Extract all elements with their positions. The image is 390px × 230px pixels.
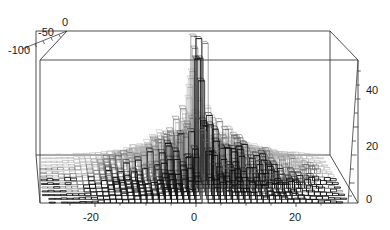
histogram-bar <box>63 164 69 166</box>
histogram-bar <box>74 160 80 163</box>
histogram-bar <box>318 166 324 170</box>
histogram-bar <box>79 197 85 199</box>
histogram-bar <box>71 182 77 185</box>
histogram-bar <box>68 158 74 159</box>
histogram-bar <box>52 168 58 170</box>
histogram-bar <box>54 191 60 192</box>
histogram-bar <box>73 157 79 159</box>
histogram-bar <box>79 157 85 159</box>
histogram-bar <box>335 187 341 188</box>
histogram-bar <box>332 183 338 185</box>
y-axis-tick <box>43 41 45 44</box>
histogram-bar-top <box>204 105 211 108</box>
histogram-bar <box>116 199 122 203</box>
histogram-bar-top <box>215 119 222 122</box>
histogram-bar <box>51 161 57 162</box>
histogram-bar <box>78 154 84 155</box>
histogram-bar <box>42 195 48 196</box>
y-axis-tick <box>51 38 53 41</box>
histogram-bar <box>315 179 321 184</box>
histogram-bar <box>45 161 51 162</box>
histogram-bar <box>39 158 45 159</box>
histogram-bar <box>54 187 60 189</box>
histogram-bar <box>331 189 337 192</box>
histogram-bar <box>46 168 52 170</box>
histogram-bar <box>49 195 55 196</box>
histogram-bar <box>67 154 73 155</box>
histogram-bar <box>329 198 335 200</box>
histogram-bar <box>69 165 75 167</box>
histogram-bar <box>61 154 67 155</box>
histogram-bar <box>104 196 110 199</box>
histogram-bar <box>80 202 86 204</box>
histogram-bar <box>52 172 58 174</box>
histogram-bar <box>84 185 90 188</box>
histogram-bar-top <box>179 106 186 109</box>
y-axis-tick <box>59 34 61 37</box>
z-axis-line <box>348 60 358 203</box>
histogram-bar <box>123 200 129 203</box>
histogram-bar <box>55 198 61 199</box>
histogram-bar <box>64 170 70 173</box>
histogram-bar <box>328 175 334 178</box>
histogram-bar <box>65 183 71 185</box>
histogram-bar <box>48 187 54 188</box>
histogram-bar <box>74 202 80 203</box>
histogram-bar-top <box>280 193 288 197</box>
histogram-bar <box>318 201 324 203</box>
histogram-bar <box>337 202 343 203</box>
histogram-bar <box>45 158 51 159</box>
histogram-bar <box>339 194 345 196</box>
histogram-bar <box>58 174 64 177</box>
histogram-bar <box>324 200 330 203</box>
histogram-bar <box>59 179 65 181</box>
histogram-bar <box>70 174 76 178</box>
histogram-bar <box>41 172 47 173</box>
histogram-bar-top <box>205 113 212 116</box>
histogram-bar <box>322 196 328 199</box>
histogram-bar <box>80 159 86 163</box>
x-tick-label-0: 0 <box>191 211 197 223</box>
histogram-bar <box>79 194 85 196</box>
histogram-bar <box>329 186 335 189</box>
histogram-bar <box>313 186 319 192</box>
histogram-bar <box>66 190 72 192</box>
histogram-bar <box>288 182 294 192</box>
histogram-bar <box>84 188 90 192</box>
histogram-bar <box>49 202 55 203</box>
z-tick-label-0: 0 <box>366 193 372 205</box>
x-tick-label-minus20: -20 <box>83 211 99 223</box>
histogram-bar <box>86 202 92 203</box>
histogram-bar <box>50 154 56 155</box>
x-axis <box>70 203 321 207</box>
histogram-bar <box>57 165 63 167</box>
histogram-bar <box>85 197 91 199</box>
histogram-bar <box>92 201 98 203</box>
histogram-bar <box>333 193 339 195</box>
histogram-bar <box>40 165 46 166</box>
histogram-bar <box>41 183 47 184</box>
histogram-bar <box>85 193 91 195</box>
histogram-bar <box>58 172 64 174</box>
histogram-bar <box>49 198 55 199</box>
histogram-bar <box>55 195 61 196</box>
histogram-bar <box>60 187 66 189</box>
histogram-bar <box>62 161 68 163</box>
plot-3d-histogram: -100 -50 0 40 20 0 <box>0 0 390 230</box>
histogram-bar <box>310 196 316 199</box>
histogram-bar <box>75 170 81 173</box>
histogram-bar <box>67 194 73 196</box>
z-tick-label-20: 20 <box>366 140 378 152</box>
histogram-bar <box>53 176 59 178</box>
histogram-bar <box>91 197 97 199</box>
histogram-bar <box>62 157 68 158</box>
histogram-bar <box>324 168 330 170</box>
histogram-bar <box>72 186 78 188</box>
box-edge-back-top-right <box>330 31 358 60</box>
histogram-bar <box>314 192 320 196</box>
histogram-bar <box>67 198 73 199</box>
histogram-bar <box>71 178 77 181</box>
histogram-bar <box>312 157 318 159</box>
histogram-bar <box>59 183 65 185</box>
histogram-bar <box>307 156 313 158</box>
